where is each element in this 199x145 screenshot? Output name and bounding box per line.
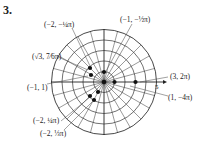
label-neg2-negquarterpi: (−2, −¼π) (44, 21, 74, 29)
label-1-neg4pi: (1, −4π) (168, 94, 192, 102)
label-3-2pi: (3, 2π) (170, 73, 190, 81)
label-neg1-1: (−1, 1) (27, 84, 47, 92)
label-sqrt3-7sixthpi: (√3, 7⁄6π) (32, 53, 61, 61)
axis-tick-5: 5 (155, 84, 159, 91)
label-neg2-quarterpi: (−2, ¼π) (33, 117, 59, 125)
label-neg2-thirdpi: (−2, ⅓π) (40, 130, 66, 138)
label-neg1-neghalfpi: (−1, −½π) (120, 16, 150, 24)
axis-arrow-icon (163, 80, 167, 84)
